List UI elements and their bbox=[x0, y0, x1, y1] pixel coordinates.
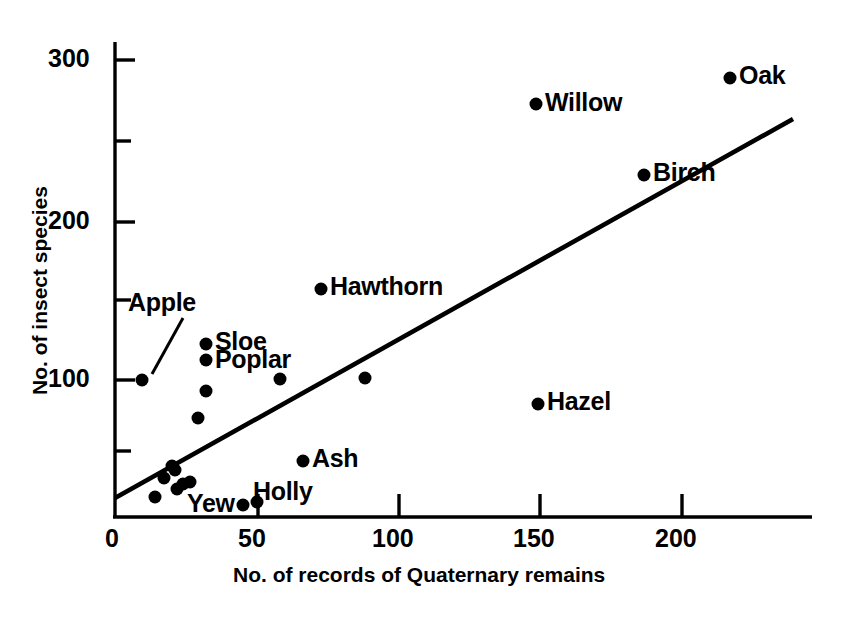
label-apple: Apple bbox=[128, 288, 196, 317]
label-poplar: Poplar bbox=[215, 345, 291, 374]
y-tick-label-100: 100 bbox=[48, 364, 90, 393]
label-oak: Oak bbox=[739, 61, 785, 90]
x-tick-label-50: 50 bbox=[238, 524, 266, 553]
point-unlabeled-10 bbox=[171, 483, 184, 496]
y-tick-label-200: 200 bbox=[48, 206, 90, 235]
point-sloe bbox=[200, 338, 213, 351]
x-axis-title: No. of records of Quaternary remains bbox=[233, 563, 605, 587]
y-axis-title: No. of insect species bbox=[28, 186, 52, 395]
point-unlabeled-9 bbox=[184, 476, 197, 489]
y-tick-label-300: 300 bbox=[48, 44, 90, 73]
point-unlabeled-6 bbox=[169, 464, 182, 477]
label-yew: Yew bbox=[187, 489, 235, 518]
label-birch: Birch bbox=[653, 158, 715, 187]
point-birch bbox=[638, 169, 651, 182]
label-ash: Ash bbox=[312, 444, 358, 473]
point-unlabeled-7 bbox=[158, 472, 171, 485]
point-oak bbox=[724, 72, 737, 85]
point-yew bbox=[237, 499, 250, 512]
point-willow bbox=[530, 98, 543, 111]
point-unlabeled-11 bbox=[149, 491, 162, 504]
x-tick-label-0: 0 bbox=[105, 524, 119, 553]
scatter-plot-figure: 300 200 100 0 50 100 150 200 No. of reco… bbox=[0, 0, 847, 625]
point-apple bbox=[136, 374, 149, 387]
label-holly: Holly bbox=[253, 477, 313, 506]
point-unlabeled-2 bbox=[274, 373, 287, 386]
point-poplar bbox=[200, 354, 213, 367]
x-ticks bbox=[258, 494, 682, 517]
y-major-ticks bbox=[115, 60, 135, 380]
point-unlabeled-4 bbox=[192, 412, 205, 425]
label-hazel: Hazel bbox=[547, 387, 611, 416]
x-tick-label-150: 150 bbox=[513, 524, 555, 553]
point-ash bbox=[297, 455, 310, 468]
axes bbox=[113, 42, 812, 517]
point-unlabeled-1 bbox=[359, 372, 372, 385]
point-unlabeled-3 bbox=[200, 385, 213, 398]
x-tick-label-100: 100 bbox=[372, 524, 414, 553]
label-hawthorn: Hawthorn bbox=[330, 272, 443, 301]
x-tick-label-200: 200 bbox=[655, 524, 697, 553]
point-hazel bbox=[532, 398, 545, 411]
apple-leader-line bbox=[152, 318, 183, 374]
label-willow: Willow bbox=[545, 88, 622, 117]
point-hawthorn bbox=[315, 283, 328, 296]
